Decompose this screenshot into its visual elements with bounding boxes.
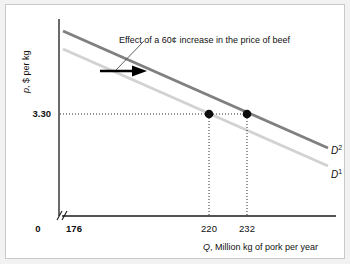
svg-text:p, $ per kg: p, $ per kg — [21, 50, 31, 94]
svg-text:D2: D2 — [331, 144, 342, 156]
xtick-label-220: 220 — [201, 223, 217, 234]
ytick-label-330: 3.30 — [33, 108, 52, 119]
svg-text:D1: D1 — [331, 168, 342, 180]
curves-group — [63, 31, 328, 166]
demand-curve-d1 — [63, 49, 328, 166]
y-axis-title: p, $ per kg — [21, 50, 31, 94]
curve-label-d1-sup: 1 — [338, 168, 342, 175]
guide-lines-group — [60, 114, 247, 216]
x-axis-title: Q, Million kg of pork per year — [203, 242, 318, 252]
curve-label-d1: D1 — [331, 168, 342, 180]
svg-text:Q, Million kg of pork per year: Q, Million kg of pork per year — [203, 242, 318, 252]
xtick-label-176: 176 — [66, 223, 82, 234]
x-axis-title-rest: , Million kg of pork per year — [210, 242, 318, 252]
curve-label-d1-text: D — [331, 169, 338, 180]
data-point-d2 — [243, 110, 252, 119]
chart-panel: 3.30 0 176 220 232 p, $ per kg Q, Millio… — [5, 4, 345, 259]
curve-label-d2-sup: 2 — [338, 144, 342, 151]
curve-label-d2-text: D — [331, 145, 338, 156]
y-axis-title-rest: , $ per kg — [21, 50, 31, 88]
axes-group — [57, 19, 336, 220]
demand-shift-chart: 3.30 0 176 220 232 p, $ per kg Q, Millio… — [6, 5, 344, 258]
curve-label-d2: D2 — [331, 144, 342, 156]
demand-curve-d2 — [63, 31, 328, 148]
data-point-d1 — [205, 110, 214, 119]
x-axis-title-symbol: Q — [203, 242, 210, 252]
x-origin-label: 0 — [35, 223, 40, 234]
xtick-label-232: 232 — [239, 223, 255, 234]
shift-annotation-label: Effect of a 60¢ increase in the price of… — [119, 35, 290, 45]
figure-root: 3.30 0 176 220 232 p, $ per kg Q, Millio… — [0, 0, 350, 264]
